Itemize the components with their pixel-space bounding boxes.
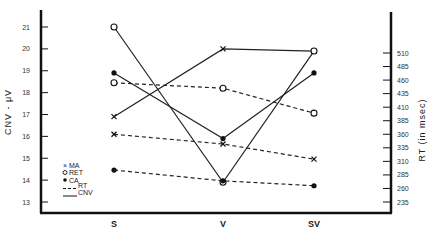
right-tick-label: 410 xyxy=(397,104,409,111)
right-tick-label: 435 xyxy=(397,90,409,97)
legend-label: CNV xyxy=(78,189,93,196)
series-ma-rt xyxy=(112,132,317,162)
right-tick-label: 260 xyxy=(397,185,409,192)
right-tick-label: 385 xyxy=(397,117,409,124)
legend-item: RET xyxy=(63,169,84,176)
x-category-label: SV xyxy=(308,219,320,229)
right-tick-label: 510 xyxy=(397,50,409,57)
legend-item: CA xyxy=(63,177,79,184)
left-axis-title: CNV - μV xyxy=(3,89,13,135)
legend-item: ×MA xyxy=(63,162,80,169)
open-circle-marker-icon xyxy=(220,85,226,91)
series-line xyxy=(114,134,314,159)
series-ma-cnv xyxy=(112,46,317,119)
legend-label: RET xyxy=(69,169,84,176)
series-line xyxy=(114,49,314,117)
left-tick-label: 14 xyxy=(22,177,30,184)
series-ca-cnv xyxy=(111,70,316,141)
legend-label: RT xyxy=(78,182,88,189)
x-marker-icon: × xyxy=(63,162,67,169)
right-tick-label: 310 xyxy=(397,158,409,165)
series-line xyxy=(114,73,314,139)
left-tick-label: 13 xyxy=(22,199,30,206)
left-tick-label: 18 xyxy=(22,89,30,96)
x-category-label: V xyxy=(220,219,226,229)
left-tick-label: 16 xyxy=(22,133,30,140)
filled-circle-icon xyxy=(63,178,67,182)
series-ret-cnv xyxy=(111,24,317,185)
filled-circle-marker-icon xyxy=(311,183,316,188)
right-tick-label: 485 xyxy=(397,63,409,70)
left-tick-label: 17 xyxy=(22,111,30,118)
x-category-label: S xyxy=(111,219,117,229)
open-circle-marker-icon xyxy=(311,110,317,116)
left-tick-label: 19 xyxy=(22,67,30,74)
open-circle-icon xyxy=(63,171,67,175)
filled-circle-marker-icon xyxy=(220,178,225,183)
open-circle-marker-icon xyxy=(111,24,117,30)
open-circle-marker-icon xyxy=(111,80,117,86)
series-ret-rt xyxy=(111,80,317,116)
filled-circle-marker-icon xyxy=(311,70,316,75)
filled-circle-marker-icon xyxy=(220,136,225,141)
series-line xyxy=(114,170,314,186)
open-circle-marker-icon xyxy=(311,48,317,54)
left-tick-label: 20 xyxy=(22,45,30,52)
legend: ×MARETCARTCNV xyxy=(63,162,93,197)
legend-label: MA xyxy=(69,162,80,169)
right-tick-label: 360 xyxy=(397,131,409,138)
right-axis-title: RT (in msec) xyxy=(417,98,427,161)
legend-item: CNV xyxy=(63,189,93,196)
left-tick-label: 21 xyxy=(22,24,30,31)
filled-circle-marker-icon xyxy=(111,167,116,172)
right-tick-label: 335 xyxy=(397,144,409,151)
right-tick-label: 460 xyxy=(397,77,409,84)
series-ca-rt xyxy=(111,167,316,188)
cnv-rt-line-chart: 1314151617181920212352602853103353603854… xyxy=(0,0,433,236)
series-layer xyxy=(111,24,317,188)
left-tick-label: 15 xyxy=(22,155,30,162)
right-tick-label: 235 xyxy=(397,199,409,206)
filled-circle-marker-icon xyxy=(111,70,116,75)
right-tick-label: 285 xyxy=(397,171,409,178)
